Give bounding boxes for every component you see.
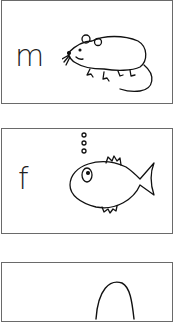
letter-f: f (18, 164, 29, 194)
fish-icon (60, 125, 170, 225)
flashcard-f: f (1, 128, 173, 234)
letter-m: m (15, 41, 44, 71)
partial-drawing-icon (88, 279, 148, 326)
flashcard-partial (1, 262, 173, 322)
mouse-icon (62, 29, 162, 99)
flashcard-m: m (1, 0, 173, 104)
